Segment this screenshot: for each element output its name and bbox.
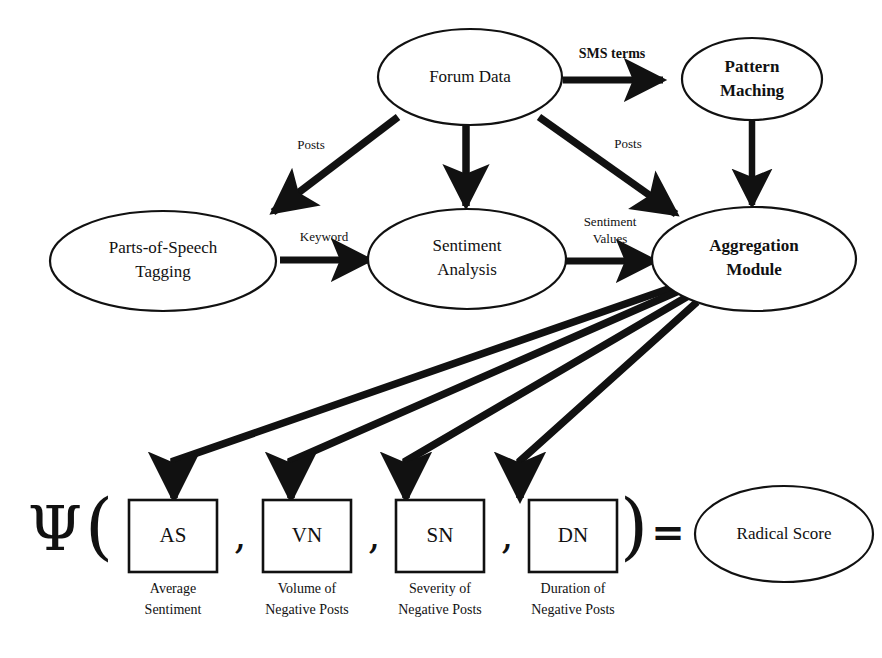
node-forum-data[interactable]: Forum Data [378, 29, 562, 125]
caption-sn-line1: Severity of [409, 581, 471, 596]
aggregation-module-label-line1: Aggregation [709, 236, 799, 255]
node-aggregation-module[interactable]: Aggregation Module [652, 207, 856, 311]
metric-box-sn[interactable]: SN [396, 500, 484, 572]
separator-comma-1: , [234, 511, 247, 557]
metric-box-dn[interactable]: DN [529, 500, 617, 572]
dn-box-code: DN [558, 523, 588, 547]
sn-box-code: SN [427, 523, 454, 547]
caption-dn-line2: Negative Posts [531, 602, 615, 617]
pos-tagging-label-line1: Parts-of-Speech [109, 238, 218, 257]
pos-tagging-label-line2: Tagging [135, 262, 191, 281]
close-paren-glyph: ) [620, 484, 648, 568]
edge-label-sentiment-values-line2: Values [593, 231, 628, 246]
node-sentiment-analysis[interactable]: Sentiment Analysis [368, 209, 566, 309]
pattern-matching-label-line2: Maching [720, 81, 785, 100]
diagram-canvas: SMS terms Posts Posts Keyword Sentiment … [0, 0, 882, 658]
sentiment-analysis-label-line1: Sentiment [433, 236, 502, 255]
edge-aggregation-to-sn [406, 295, 690, 498]
vn-box-code: VN [292, 523, 322, 547]
equals-glyph: = [651, 508, 685, 555]
edge-label-posts-left: Posts [297, 137, 324, 152]
caption-vn-line1: Volume of [278, 581, 337, 596]
caption-vn-line2: Negative Posts [265, 602, 349, 617]
caption-as-line1: Average [150, 581, 196, 596]
separator-comma-2: , [368, 511, 381, 557]
radical-score-label: Radical Score [737, 524, 832, 543]
edge-label-sms-terms: SMS terms [579, 46, 646, 61]
edge-label-keyword: Keyword [300, 229, 349, 244]
as-box-code: AS [160, 523, 187, 547]
caption-sn-line2: Negative Posts [398, 602, 482, 617]
node-radical-score[interactable]: Radical Score [695, 486, 873, 582]
separator-comma-3: , [501, 511, 514, 557]
caption-dn-line1: Duration of [541, 581, 606, 596]
edge-forum-to-pos [273, 117, 398, 212]
aggregation-module-label-line2: Module [726, 260, 782, 279]
node-pattern-matching[interactable]: Pattern Maching [682, 38, 822, 120]
open-paren-glyph: ( [85, 484, 113, 568]
diagram-root: SMS terms Posts Posts Keyword Sentiment … [0, 0, 882, 658]
psi-function-symbol: Ψ [28, 492, 82, 565]
sentiment-analysis-label-line2: Analysis [437, 260, 497, 279]
edge-label-posts-right: Posts [614, 136, 641, 151]
metric-box-as[interactable]: AS [129, 500, 217, 572]
edge-aggregation-to-vn [291, 290, 681, 498]
forum-data-label: Forum Data [429, 67, 511, 86]
pattern-matching-label-line1: Pattern [725, 57, 780, 76]
node-pos-tagging[interactable]: Parts-of-Speech Tagging [50, 211, 276, 311]
edge-forum-to-aggregation [539, 117, 676, 214]
edge-label-sentiment-values-line1: Sentiment [584, 214, 637, 229]
caption-as-line2: Sentiment [145, 602, 202, 617]
metric-box-vn[interactable]: VN [263, 500, 351, 572]
pattern-matching-ellipse [682, 38, 822, 120]
